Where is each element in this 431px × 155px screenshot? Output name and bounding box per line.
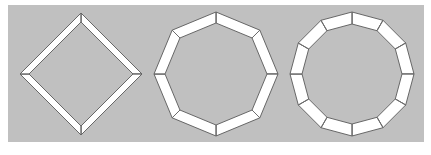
square-annulus <box>20 13 142 135</box>
figure-container <box>0 0 431 155</box>
band-segment <box>81 74 142 135</box>
band-segment <box>20 13 81 74</box>
band-segment <box>377 99 406 128</box>
dodecagon-annulus <box>290 12 414 136</box>
band-segment <box>154 74 180 118</box>
band-segment <box>216 110 260 136</box>
band-segment <box>81 13 142 74</box>
band-segment <box>298 20 327 49</box>
band-segment <box>377 20 406 49</box>
band-segment <box>20 74 81 135</box>
band-segment <box>216 12 260 38</box>
band-segment <box>298 99 327 128</box>
polygon-annuli-diagram <box>0 0 431 155</box>
octagon-annulus <box>154 12 278 136</box>
band-segment <box>154 30 180 74</box>
band-segment <box>172 12 216 38</box>
band-segment <box>172 110 216 136</box>
band-segment <box>252 74 278 118</box>
shapes-group <box>20 12 414 136</box>
band-segment <box>252 30 278 74</box>
